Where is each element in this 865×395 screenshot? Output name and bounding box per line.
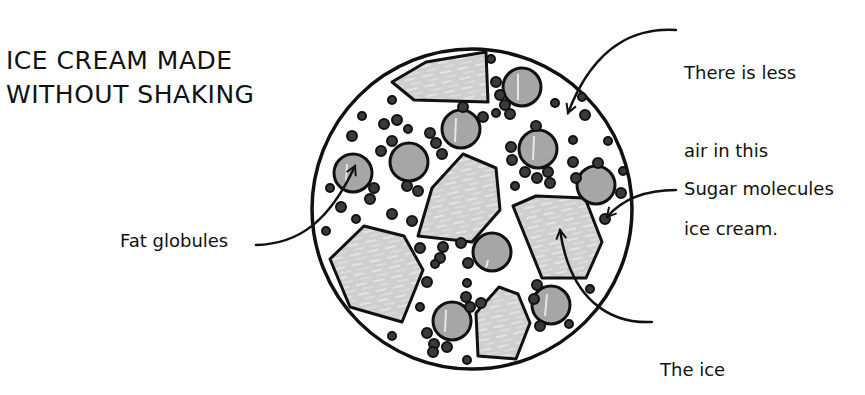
- fat-globule: [473, 233, 511, 271]
- ice-crystal: [392, 52, 488, 102]
- fat-globule: [519, 130, 557, 168]
- air-label-line-3: ice cream.: [684, 216, 796, 242]
- air-label-line-1: There is less: [684, 60, 796, 86]
- fat-globule: [577, 166, 615, 204]
- sugar-label: Sugar molecules: [684, 176, 834, 202]
- diagram-stage: ICE CREAM MADEWITHOUT SHAKING: [0, 0, 865, 395]
- fat-globule: [532, 286, 570, 324]
- air-label: There is less air in this ice cream.: [684, 8, 796, 294]
- air-label-line-2: air in this: [684, 138, 796, 164]
- fat-globule: [390, 143, 428, 181]
- fat-globule: [442, 110, 480, 148]
- fat-label: Fat globules: [120, 228, 228, 254]
- ice-crystals-label: The ice crystals are big.: [660, 305, 730, 395]
- ice-label-line-1: The ice: [660, 357, 730, 383]
